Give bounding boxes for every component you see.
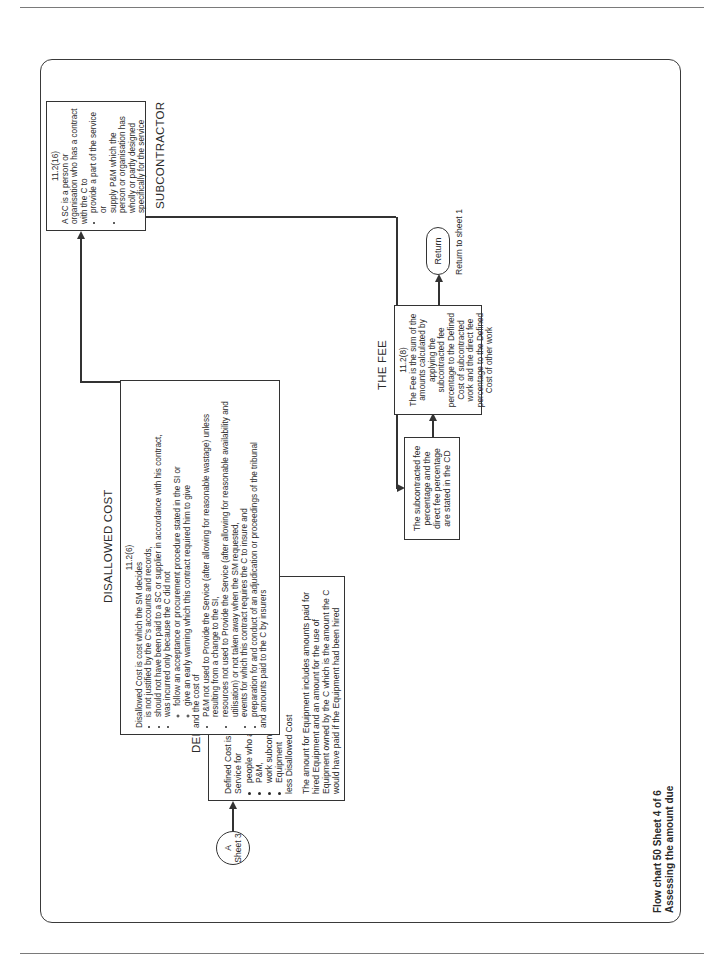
disallowed-cost-closing: and amounts paid to the C by insurers — [259, 387, 269, 728]
return-terminator: Return — [426, 227, 450, 275]
arrow-right-icon — [435, 274, 443, 282]
subcontractor-bullets: provide a part of the service or supply … — [89, 108, 147, 224]
disallowed-cost-bullet: was incurred only because the C did not — [163, 387, 173, 717]
header-rule — [20, 7, 704, 8]
disallowed-cost-bullet: P&M not used to Provide the Service (aft… — [202, 387, 221, 717]
disallowed-cost-intro: Disallowed Cost is cost which the SM dec… — [135, 387, 145, 728]
the-fee-ref: 11.2(8) — [399, 312, 409, 408]
disallowed-cost-bullet: events for which this contract requires … — [240, 387, 250, 717]
the-fee-box: 11.2(8) The Fee is the sum of the amount… — [394, 305, 482, 415]
subcontractor-bullet: provide a part of the service or — [89, 108, 108, 213]
connector-label: Sheet 3 — [233, 833, 243, 862]
disallowed-cost-ref: 11.2(6) — [125, 387, 135, 728]
caption-subtitle: Assessing the amount due — [664, 786, 676, 913]
return-note: Return to sheet 1 — [454, 209, 464, 275]
caption-title: Flow chart 50 Sheet 4 of 6 — [652, 786, 664, 913]
connector-to-defined-cost-line — [232, 806, 234, 831]
subcontractor-intro: A SC is a person or organisation who has… — [61, 108, 90, 224]
the-fee-text: The Fee is the sum of the amounts calcul… — [409, 312, 495, 408]
disallowed-cost-bullets: is not justified by the C's accounts and… — [144, 387, 192, 728]
fee-percentages-text: The subcontracted fee percentage and the… — [412, 444, 453, 533]
footer-rule — [20, 953, 704, 954]
fee-percent-to-fee-line — [432, 419, 434, 437]
arrow-right-icon — [77, 231, 85, 239]
fee-percentages-box: The subcontracted fee percentage and the… — [404, 437, 460, 540]
connector-letter: A — [223, 845, 233, 851]
subcontractor-bullet: supply P&M which the person or organisat… — [109, 108, 147, 213]
disallowed-cost-box: 11.2(6) Disallowed Cost is cost which th… — [120, 380, 280, 735]
disallowed-cost-sub-bullets: follow an acceptance or procurement proc… — [173, 387, 192, 717]
disallowed-to-subcontractor-line — [80, 236, 82, 383]
defined-cost-less: less Disallowed Cost — [284, 583, 294, 794]
disallowed-cost-heading: DISALLOWED COST — [102, 489, 114, 603]
arrow-right-icon — [229, 801, 237, 809]
disallowed-cost-sub-bullet: follow an acceptance or procurement proc… — [173, 387, 183, 706]
subcontractor-down-line — [146, 217, 396, 219]
subcontractor-box: 11.2(16) A SC is a person or organisatio… — [46, 101, 146, 231]
subcontractor-heading: SUBCONTRACTOR — [154, 102, 166, 209]
defined-cost-equipment-note: The amount for Equipment includes amount… — [301, 583, 342, 794]
start-connector: A Sheet 3 — [216, 831, 250, 865]
fee-to-return-line — [438, 279, 440, 305]
disallowed-cost-and-cost-of: and the cost of — [192, 387, 202, 728]
the-fee-heading: THE FEE — [376, 340, 388, 390]
subcontractor-ref: 11.2(16) — [51, 108, 61, 224]
disallowed-up-line — [80, 382, 120, 384]
disallowed-cost-sub-bullet: give an early warning which this contrac… — [183, 387, 193, 706]
disallowed-cost-bullet: is not justified by the C's accounts and… — [144, 387, 154, 717]
return-label: Return — [433, 238, 443, 265]
disallowed-cost-bullets-2: P&M not used to Provide the Service (aft… — [202, 387, 260, 728]
flowchart-canvas: Flow chart 50 Sheet 4 of 6 Assessing the… — [40, 57, 683, 923]
disallowed-cost-bullet: should not have been paid to a SC or sup… — [154, 387, 164, 717]
disallowed-cost-bullet: resources not used to Provide the Servic… — [221, 387, 240, 717]
flowchart-caption: Flow chart 50 Sheet 4 of 6 Assessing the… — [652, 786, 676, 913]
disallowed-cost-bullet: preparation for and conduct of an adjudi… — [250, 387, 260, 717]
